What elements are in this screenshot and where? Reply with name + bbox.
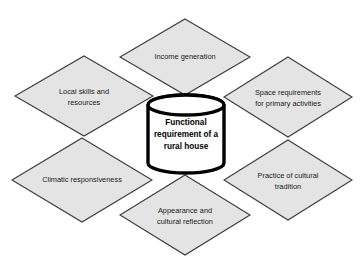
cylinder-top-rim	[148, 95, 224, 115]
diagram-canvas: Local skills and resources Space require…	[0, 0, 364, 273]
diamond-shape	[224, 57, 352, 137]
node-space-requirements-for-primary-activities[interactable]: Space requirements for primary activitie…	[224, 57, 352, 137]
center-label-line-2: requirement of a	[154, 130, 219, 139]
diamond-shape	[15, 56, 153, 136]
center-label-line-3: rural house	[164, 142, 209, 151]
diamond-shape	[224, 140, 352, 220]
node-label-line-2: resources	[68, 98, 101, 107]
node-label-line-1: Appearance and	[158, 206, 212, 215]
cropped-caption-artifact	[0, 265, 364, 273]
node-label-line-2: for primary activities	[255, 99, 321, 108]
node-label-line-2: cultural reflection	[157, 217, 213, 226]
node-label-line-1: Local skills and	[59, 87, 109, 96]
node-label-line-1: Space requirements	[255, 88, 321, 97]
center-label-line-1: Functional	[165, 118, 206, 127]
diagram-svg: Local skills and resources Space require…	[0, 0, 364, 273]
node-label-line-1: Climatic responsiveness	[42, 175, 122, 184]
node-label-line-2: tradition	[275, 182, 301, 191]
node-practice-of-cultural-tradition[interactable]: Practice of cultural tradition	[224, 140, 352, 220]
center-node-functional-requirement[interactable]: Functional requirement of a rural house	[148, 95, 224, 173]
node-income-generation[interactable]: Income generation	[120, 19, 250, 95]
node-label-line-1: Practice of cultural	[258, 171, 319, 180]
node-label-line-1: Income generation	[154, 52, 215, 61]
node-local-skills-and-resources[interactable]: Local skills and resources	[15, 56, 153, 136]
